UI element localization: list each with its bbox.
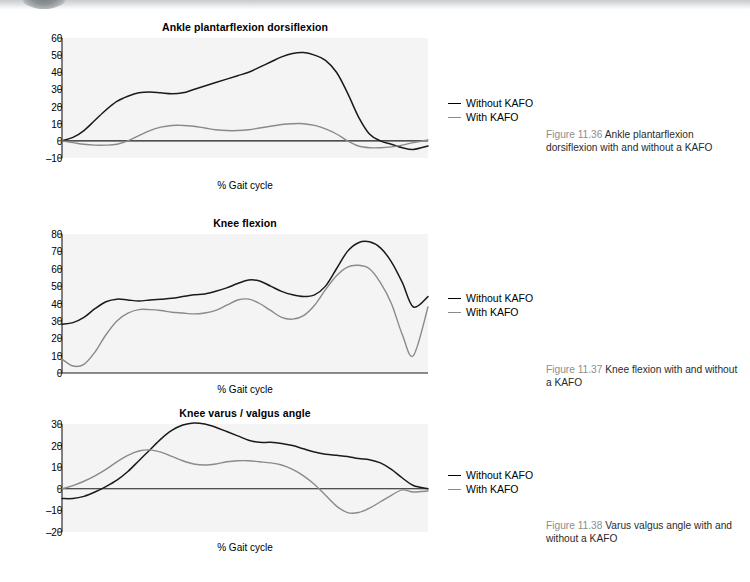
legend-line-with-kafo <box>448 489 461 490</box>
legend-line-with-kafo <box>448 312 461 313</box>
plot-knee-flexion: 80706050403020100 <box>0 234 440 382</box>
x-axis-label-knee-flexion: % Gait cycle <box>62 384 428 395</box>
legend-line-without-kafo <box>448 298 461 299</box>
series-line-with-kafo <box>62 124 428 148</box>
caption-number-11-36: Figure 11.36 <box>546 129 602 140</box>
chart-svg-ankle <box>0 38 440 170</box>
legend-label-with-kafo: With KAFO <box>466 111 519 123</box>
legend-line-without-kafo <box>448 103 461 104</box>
legend-item-with-kafo: With KAFO <box>448 305 533 319</box>
series-line-without-kafo <box>62 52 428 149</box>
legend-knee-flexion: Without KAFO With KAFO <box>448 291 533 319</box>
legend-item-without-kafo: Without KAFO <box>448 468 533 482</box>
caption-11-38: Figure 11.38 Varus valgus angle with and… <box>546 520 742 545</box>
legend-item-without-kafo: Without KAFO <box>448 96 533 110</box>
chart-title-varus-valgus: Knee varus / valgus angle <box>62 407 428 419</box>
caption-11-36: Figure 11.36 Ankle plantarflexion dorsif… <box>546 129 736 154</box>
caption-number-11-37: Figure 11.37 <box>546 364 602 375</box>
x-axis-label-varus-valgus: % Gait cycle <box>62 542 428 553</box>
legend-label-without-kafo: Without KAFO <box>466 469 533 481</box>
figure-11-38: Knee varus / valgus angle 3020100–10–20 … <box>0 402 750 582</box>
legend-label-with-kafo: With KAFO <box>466 483 519 495</box>
page-corner-blob <box>22 0 66 9</box>
legend-item-with-kafo: With KAFO <box>448 482 533 496</box>
caption-11-37: Figure 11.37 Knee flexion with and witho… <box>546 364 742 389</box>
chart-title-knee-flexion: Knee flexion <box>62 217 428 229</box>
plot-ankle: 6050403020100–10 <box>0 38 440 170</box>
legend-line-with-kafo <box>448 117 461 118</box>
chart-svg-knee-flexion <box>0 234 440 382</box>
legend-label-with-kafo: With KAFO <box>466 306 519 318</box>
legend-line-without-kafo <box>448 475 461 476</box>
figure-11-37: Knee flexion 80706050403020100 % Gait cy… <box>0 212 750 400</box>
legend-label-without-kafo: Without KAFO <box>466 97 533 109</box>
series-line-with-kafo <box>62 450 428 513</box>
page-edge-artifact <box>0 0 750 9</box>
legend-varus-valgus: Without KAFO With KAFO <box>448 468 533 496</box>
chart-svg-varus-valgus <box>0 424 440 542</box>
legend-item-without-kafo: Without KAFO <box>448 291 533 305</box>
figure-11-36: Ankle plantarflexion dorsiflexion 605040… <box>0 14 750 200</box>
plot-varus-valgus: 3020100–10–20 <box>0 424 440 542</box>
legend-ankle: Without KAFO With KAFO <box>448 96 533 124</box>
x-axis-label-ankle: % Gait cycle <box>62 180 428 191</box>
legend-label-without-kafo: Without KAFO <box>466 292 533 304</box>
legend-item-with-kafo: With KAFO <box>448 110 533 124</box>
series-line-without-kafo <box>62 241 428 324</box>
caption-number-11-38: Figure 11.38 <box>546 520 602 531</box>
chart-title-ankle: Ankle plantarflexion dorsiflexion <box>62 21 428 33</box>
